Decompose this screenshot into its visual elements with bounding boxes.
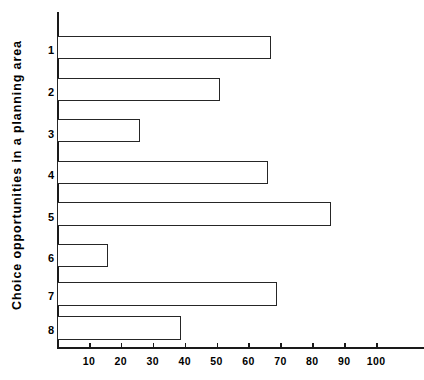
y-tick-label: 6 xyxy=(36,253,54,264)
x-tick-label: 40 xyxy=(178,355,190,367)
y-axis-title-text: Choice opportunities in a planning area xyxy=(10,40,24,310)
plot-area xyxy=(57,12,424,349)
x-tick-mark xyxy=(312,343,314,349)
x-tick-mark xyxy=(185,343,187,349)
x-tick-label: 70 xyxy=(274,355,286,367)
x-tick-mark xyxy=(217,343,219,349)
y-tick-label: 5 xyxy=(36,212,54,223)
y-tick-label: 8 xyxy=(36,325,54,336)
bar-category-5 xyxy=(57,202,331,226)
x-tick-label: 10 xyxy=(83,355,95,367)
x-tick-mark xyxy=(344,343,346,349)
x-tick-label: 90 xyxy=(338,355,350,367)
bar-category-4 xyxy=(57,161,268,184)
x-tick-label: 20 xyxy=(115,355,127,367)
bar-chart: Choice opportunities in a planning area … xyxy=(0,0,424,380)
y-tick-label: 7 xyxy=(36,291,54,302)
x-tick-mark xyxy=(153,343,155,349)
x-tick-mark xyxy=(121,343,123,349)
x-axis-ticks: 102030405060708090100 xyxy=(57,349,424,380)
x-tick-label: 80 xyxy=(306,355,318,367)
y-axis-tick-labels: 1 2 3 4 5 6 7 8 xyxy=(28,12,54,349)
x-tick-mark xyxy=(280,343,282,349)
y-tick-label: 3 xyxy=(36,129,54,140)
y-tick-label: 2 xyxy=(36,87,54,98)
bar-category-8 xyxy=(57,316,181,340)
bar-category-7 xyxy=(57,282,277,306)
y-tick-label: 1 xyxy=(36,45,54,56)
x-tick-mark xyxy=(89,343,91,349)
x-tick-mark xyxy=(376,343,378,349)
x-tick-label: 30 xyxy=(146,355,158,367)
bar-category-1 xyxy=(57,36,271,59)
x-tick-mark xyxy=(248,343,250,349)
bar-category-2 xyxy=(57,78,220,101)
bar-category-3 xyxy=(57,119,140,142)
x-tick-label: 100 xyxy=(367,355,386,367)
y-tick-label: 4 xyxy=(36,170,54,181)
bar-category-6 xyxy=(57,244,108,267)
x-tick-label: 50 xyxy=(210,355,222,367)
x-tick-label: 60 xyxy=(242,355,254,367)
